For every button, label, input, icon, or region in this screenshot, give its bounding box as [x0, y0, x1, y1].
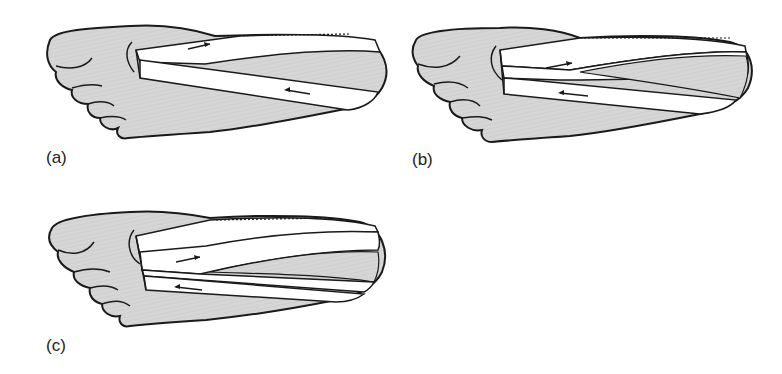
panel-a: (a)	[30, 0, 400, 180]
foot-tape-diagram-a	[30, 0, 400, 180]
panel-label-c: (c)	[46, 336, 66, 356]
panel-label-b: (b)	[412, 150, 433, 170]
panel-label-a: (a)	[46, 148, 67, 168]
panel-b: (b)	[400, 0, 782, 180]
panel-c: (c)	[30, 190, 400, 374]
foot-tape-diagram-c	[30, 190, 400, 374]
foot-tape-diagram-b	[400, 0, 782, 180]
